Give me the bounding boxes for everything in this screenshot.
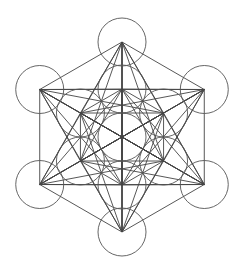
connecting-line <box>122 42 204 90</box>
connecting-line <box>40 185 122 233</box>
metatrons-cube-diagram <box>0 0 243 275</box>
connecting-line <box>122 185 204 233</box>
connecting-lines <box>40 42 205 232</box>
connecting-line <box>40 42 122 90</box>
